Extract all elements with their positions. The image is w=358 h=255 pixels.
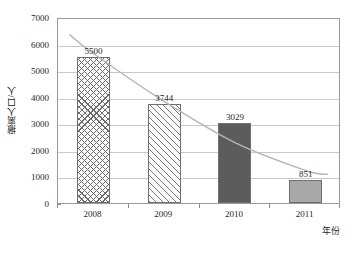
y-axis-tick-label: 3000 <box>31 120 49 129</box>
x-axis-tick-label-2009: 2009 <box>154 209 172 220</box>
bar-2009 <box>148 104 181 203</box>
data-label-2008: 5500 <box>84 46 102 56</box>
x-axis-tick <box>269 204 270 208</box>
x-axis-tick-label-2008: 2008 <box>83 209 101 220</box>
y-axis-tick-label: 0 <box>45 200 50 209</box>
y-axis-tick-label: 2000 <box>31 146 49 155</box>
bar-2011 <box>289 180 322 203</box>
x-axis-tick-labels: 2008200920102011 <box>57 209 340 223</box>
x-axis-title: 年份 <box>322 226 340 237</box>
bar-chart: 撤离人口/人 01000200030004000500060007000 550… <box>0 0 358 255</box>
x-axis-tick <box>199 204 200 208</box>
x-axis-tick <box>128 204 129 208</box>
y-axis-tick-label: 1000 <box>31 173 49 182</box>
y-axis-title-text: 撤离人口/人 <box>7 86 16 134</box>
bar-2010 <box>218 123 251 203</box>
x-axis-tick-label-2011: 2011 <box>296 209 314 220</box>
x-axis-tick-label-2010: 2010 <box>225 209 243 220</box>
bar-2008 <box>77 57 110 203</box>
y-axis-title: 撤离人口/人 <box>2 20 20 200</box>
data-label-2009: 3744 <box>155 93 173 103</box>
y-axis-tick-label: 7000 <box>31 14 49 23</box>
y-axis-tick-labels: 01000200030004000500060007000 <box>20 18 53 204</box>
x-axis-tick <box>339 204 340 208</box>
x-axis-tick <box>57 204 58 208</box>
data-label-2010: 3029 <box>226 112 244 122</box>
data-label-2011: 851 <box>299 169 313 179</box>
y-axis-tick-label: 6000 <box>31 40 49 49</box>
plot-area: 550037443029851 <box>57 18 340 204</box>
y-axis-tick-label: 4000 <box>31 93 49 102</box>
y-axis-tick-label: 5000 <box>31 67 49 76</box>
